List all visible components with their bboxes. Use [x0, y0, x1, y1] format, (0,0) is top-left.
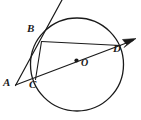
- chord-bd: [42, 42, 121, 46]
- point-label-a: A: [3, 77, 10, 88]
- center-point-o-dot: [74, 58, 78, 62]
- point-label-b: B: [27, 23, 34, 34]
- geometry-figure: A B C D O: [0, 0, 141, 120]
- center-label-o: O: [81, 58, 88, 68]
- point-label-d: D: [113, 43, 121, 54]
- secant-arrowhead-icon: [123, 39, 137, 48]
- geometry-canvas: [0, 0, 141, 120]
- point-label-c: C: [29, 79, 36, 90]
